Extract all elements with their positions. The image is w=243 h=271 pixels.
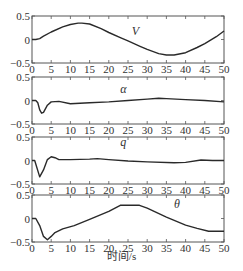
x-tick-label: 30 <box>142 124 154 136</box>
x-tick-label: 40 <box>180 184 192 196</box>
series-label: θ <box>174 197 180 211</box>
panel-α: 051015202530354045500.50−0.5α <box>10 71 230 136</box>
x-tick-label: 5 <box>48 124 54 136</box>
series-line-q <box>32 157 224 177</box>
y-tick-label: 0.5 <box>16 131 30 143</box>
panel-θ: 051015202530354045500.50−0.5θ <box>10 189 230 254</box>
y-tick-label: 0 <box>25 34 31 46</box>
x-tick-label: 5 <box>48 63 54 75</box>
y-tick-label: −0.5 <box>10 118 30 130</box>
x-tick-label: 25 <box>123 63 135 75</box>
x-tick-label: 50 <box>219 184 231 196</box>
chart-canvas: 051015202530354045500.50−0.5V05101520253… <box>0 0 243 271</box>
y-tick-label: 0.5 <box>16 71 30 83</box>
x-tick-label: 20 <box>103 63 115 75</box>
y-tick-label: 0 <box>25 95 31 107</box>
plot-frame <box>32 195 224 242</box>
x-tick-label: 5 <box>48 184 54 196</box>
series-label: q <box>120 135 126 149</box>
x-tick-label: 35 <box>161 124 173 136</box>
x-tick-label: 20 <box>103 124 115 136</box>
y-tick-label: −0.5 <box>10 57 30 69</box>
series-line-α <box>32 98 224 113</box>
series-line-θ <box>32 205 224 239</box>
x-tick-label: 30 <box>142 63 154 75</box>
x-tick-label: 40 <box>180 124 192 136</box>
x-tick-label: 0 <box>29 184 35 196</box>
x-tick-label: 0 <box>29 124 35 136</box>
y-tick-label: 0 <box>25 155 31 167</box>
series-label: α <box>120 82 127 96</box>
series-line-V <box>32 23 224 55</box>
x-tick-label: 30 <box>142 184 154 196</box>
x-axis-title: 时间/s <box>0 247 243 263</box>
series-label: V <box>132 24 141 38</box>
x-tick-label: 50 <box>219 124 231 136</box>
x-tick-label: 25 <box>123 124 135 136</box>
x-tick-label: 10 <box>65 63 77 75</box>
x-tick-label: 25 <box>123 184 135 196</box>
x-tick-label: 20 <box>103 184 115 196</box>
x-tick-label: 45 <box>199 63 211 75</box>
panel-V: 051015202530354045500.50−0.5V <box>10 10 230 75</box>
x-tick-label: 45 <box>199 184 211 196</box>
x-tick-label: 40 <box>180 63 192 75</box>
panel-q: 051015202530354045500.50−0.5q <box>10 131 230 196</box>
x-tick-label: 35 <box>161 63 173 75</box>
x-tick-label: 15 <box>84 63 96 75</box>
x-tick-label: 0 <box>29 63 35 75</box>
x-tick-label: 10 <box>65 184 77 196</box>
y-tick-label: 0.5 <box>16 189 30 201</box>
x-tick-label: 15 <box>84 124 96 136</box>
x-tick-label: 35 <box>161 184 173 196</box>
x-tick-label: 50 <box>219 63 231 75</box>
y-tick-label: 0 <box>25 213 31 225</box>
plot-frame <box>32 16 224 63</box>
y-tick-label: 0.5 <box>16 10 30 22</box>
x-tick-label: 45 <box>199 124 211 136</box>
x-tick-label: 15 <box>84 184 96 196</box>
x-tick-label: 10 <box>65 124 77 136</box>
